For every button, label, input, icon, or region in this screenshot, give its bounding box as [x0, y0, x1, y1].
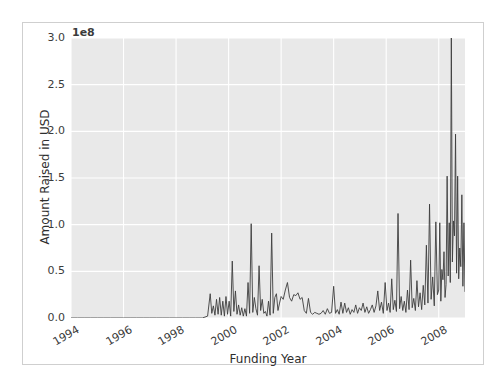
y-axis-tick-label: 2.0	[25, 124, 65, 137]
x-axis-title: Funding Year	[71, 352, 465, 366]
y-axis-tick-label: 3.0	[25, 31, 65, 44]
chart-plot-svg	[71, 38, 465, 318]
y-axis-tick-label: 0.5	[25, 264, 65, 277]
grid-lines	[71, 38, 465, 318]
plot-area	[71, 38, 465, 318]
y-axis-tick-label: 1.5	[25, 171, 65, 184]
chart-root: 1e8 Amount Raised in USD Funding Year 0.…	[0, 0, 504, 386]
y-axis-tick-label: 1.0	[25, 218, 65, 231]
y-axis-tick-label: 0.0	[25, 311, 65, 324]
y-axis-tick-label: 2.5	[25, 78, 65, 91]
